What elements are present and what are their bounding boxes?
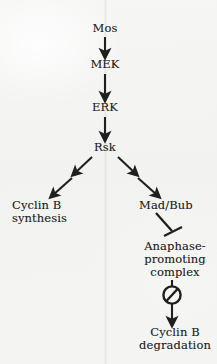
node-label-rsk: Rsk [75,141,135,154]
circle-slash-block-icon [163,286,180,303]
node-label-cyclin-b-synthesis: Cyclin B synthesis [12,199,96,225]
pathway-figure: Mos MEK ERK Rsk Cyclin B synthesis Mad/B… [0,0,217,364]
pathway-edges-layer [0,0,217,364]
node-label-mad-bub: Mad/Bub [139,199,211,212]
arrow-rsk-to-cyclinb-synthesis [53,157,92,195]
node-label-mek: MEK [75,58,135,71]
arrow-rsk-to-madbub [118,157,157,195]
node-label-mos: Mos [75,22,135,35]
node-label-erk: ERK [75,101,135,114]
node-label-cyclin-b-degradation: Cyclin B degradation [133,326,217,352]
node-label-anaphase-promoting-complex: Anaphase- promoting complex [133,240,217,279]
inhibition-tbar-madbub-to-apc [156,213,182,236]
